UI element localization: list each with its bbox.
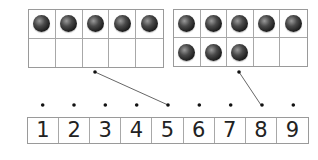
ten-frame-cell	[227, 38, 254, 66]
ten-frame-cell	[280, 10, 307, 38]
ten-frame-cell	[56, 10, 83, 39]
number-cell-5[interactable]: 5	[152, 118, 183, 143]
counter-icon	[205, 15, 222, 32]
number-dot-4[interactable]	[135, 103, 139, 107]
ten-frame-cell	[254, 10, 281, 38]
number-dot-9[interactable]	[292, 103, 296, 107]
ten-frame-cell	[254, 38, 281, 66]
number-dot-8[interactable]	[260, 103, 264, 107]
number-cell-9[interactable]: 9	[277, 118, 308, 143]
frame-dot-left[interactable]	[93, 70, 97, 74]
ten-frame-cell	[174, 10, 201, 38]
counter-icon	[114, 15, 131, 32]
ten-frame-cell	[83, 10, 110, 39]
counter-icon	[231, 15, 248, 32]
counter-icon	[141, 15, 158, 32]
ten-frame-cell	[109, 39, 136, 68]
counter-icon	[205, 44, 222, 61]
number-dot-2[interactable]	[72, 103, 76, 107]
number-cell-8[interactable]: 8	[246, 118, 277, 143]
connector-line-left-to-5	[95, 72, 168, 105]
counter-icon	[231, 44, 248, 61]
ten-frame-cell	[56, 39, 83, 68]
counter-icon	[178, 15, 195, 32]
number-dot-1[interactable]	[41, 103, 45, 107]
ten-frame-cell	[136, 10, 163, 39]
ten-frame-cell	[29, 10, 56, 39]
number-cell-2[interactable]: 2	[59, 118, 90, 143]
ten-frame-cell	[201, 38, 228, 66]
connector-line-right-to-8	[239, 72, 261, 105]
number-dot-6[interactable]	[198, 103, 202, 107]
ten-frame-cell	[227, 10, 254, 38]
counter-icon	[33, 15, 50, 32]
counter-icon	[60, 15, 77, 32]
ten-frame-right	[173, 9, 308, 67]
counter-icon	[87, 15, 104, 32]
number-cell-4[interactable]: 4	[121, 118, 152, 143]
number-dot-5[interactable]	[166, 103, 170, 107]
number-cell-7[interactable]: 7	[215, 118, 246, 143]
number-dots	[41, 103, 295, 107]
number-cell-1[interactable]: 1	[28, 118, 59, 143]
counter-icon	[258, 15, 275, 32]
ten-frame-left	[28, 9, 164, 68]
ten-frame-cell	[136, 39, 163, 68]
number-cell-3[interactable]: 3	[90, 118, 121, 143]
number-dot-3[interactable]	[104, 103, 108, 107]
ten-frame-cell	[109, 10, 136, 39]
ten-frame-cell	[280, 38, 307, 66]
ten-frame-cell	[29, 39, 56, 68]
number-line: 1 2 3 4 5 6 7 8 9	[27, 117, 309, 144]
ten-frame-cell	[201, 10, 228, 38]
ten-frame-cell	[83, 39, 110, 68]
number-dot-7[interactable]	[229, 103, 233, 107]
number-cell-6[interactable]: 6	[184, 118, 215, 143]
ten-frame-cell	[174, 38, 201, 66]
counter-icon	[285, 15, 302, 32]
counter-icon	[178, 44, 195, 61]
frame-dot-right[interactable]	[237, 70, 241, 74]
